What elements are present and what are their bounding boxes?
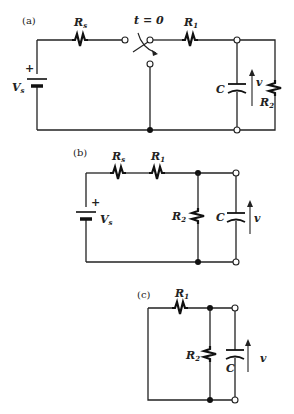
capacitor-icon (227, 213, 245, 222)
panel-c: (c) R1 R2 C v (137, 287, 267, 403)
cap-label: C (216, 211, 225, 224)
resistor-r2-icon (192, 208, 204, 224)
voltage-label: v (254, 212, 261, 225)
switch-terminal-lower (147, 61, 153, 67)
voltage-arrow-icon (245, 339, 251, 372)
battery-icon (76, 212, 96, 219)
r1-label: R1 (183, 16, 198, 30)
resistor-r1-icon (182, 34, 198, 46)
voltage-label: v (260, 352, 267, 365)
r1-label: R1 (174, 287, 189, 301)
circuit-figure: (a) + Vs Rs t = 0 R1 (0, 0, 294, 414)
voltage-arrow-icon (247, 200, 253, 234)
capacitor-icon (228, 84, 246, 93)
rs-label: Rs (73, 16, 87, 30)
switch-terminal-left (122, 37, 128, 43)
r2-label: R2 (259, 96, 274, 110)
panel-c-tag: (c) (137, 289, 151, 300)
panel-b-tag: (b) (73, 147, 87, 158)
voltage-label: v (256, 76, 263, 89)
switch-icon (133, 33, 158, 56)
junction-node (147, 127, 153, 133)
r1-label: R1 (150, 150, 165, 164)
output-terminal-top (232, 305, 238, 311)
resistor-r2-icon (269, 80, 281, 96)
resistor-r2-icon (204, 346, 216, 362)
voltage-arrow-icon (249, 69, 255, 106)
cap-label: C (226, 362, 235, 375)
resistor-rs-icon (72, 34, 88, 46)
panel-a-tag: (a) (22, 15, 36, 26)
output-terminal-top (233, 170, 239, 176)
resistor-r1-icon (149, 167, 165, 179)
junction-node (195, 259, 201, 265)
rs-label: Rs (111, 150, 125, 164)
output-terminal-bottom (233, 259, 239, 265)
source-label: Vs (12, 81, 25, 95)
r2-label: R2 (171, 210, 186, 224)
source-label: Vs (100, 213, 113, 227)
battery-plus-label: + (91, 196, 100, 209)
capacitor-icon (226, 350, 244, 359)
resistor-rs-icon (110, 167, 126, 179)
cap-label: C (216, 83, 225, 96)
resistor-r1-icon (172, 302, 188, 314)
battery-icon (27, 79, 47, 86)
r2-label: R2 (185, 349, 200, 363)
output-terminal-bottom (232, 397, 238, 403)
output-terminal-bottom (234, 127, 240, 133)
junction-node (207, 397, 213, 403)
battery-plus-label: + (25, 62, 34, 75)
panel-b: (b) + Vs Rs R1 R2 C v (73, 147, 261, 265)
panel-a: (a) + Vs Rs t = 0 R1 (12, 14, 281, 133)
output-terminal-top (234, 37, 240, 43)
switch-time-label: t = 0 (134, 14, 164, 27)
